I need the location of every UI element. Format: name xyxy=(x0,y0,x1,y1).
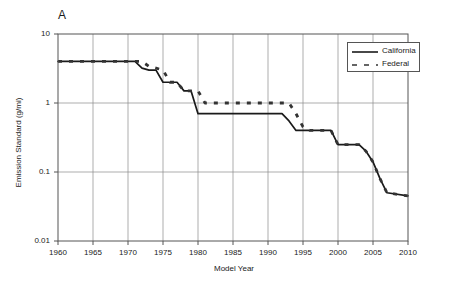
legend-entry-federal: Federal xyxy=(348,58,421,71)
legend-entry-california: California xyxy=(348,45,421,58)
x-tick-label: 2005 xyxy=(353,248,393,257)
y-tick-label: 0.01 xyxy=(20,236,50,245)
y-axis-title: Emission Standard (g/mi) xyxy=(14,63,23,223)
panel-label-a: A xyxy=(58,8,66,22)
x-tick-label: 2010 xyxy=(388,248,428,257)
emission-standard-figure: A 0.010.1110 196019651970197519801985199… xyxy=(0,0,468,290)
x-tick-label: 2000 xyxy=(318,248,358,257)
y-tick-label: 1 xyxy=(20,98,50,107)
x-tick-label: 1975 xyxy=(143,248,183,257)
legend-label-federal: Federal xyxy=(382,59,409,68)
legend-line-solid-icon xyxy=(352,51,378,53)
x-axis-title: Model Year xyxy=(0,264,468,273)
x-tick-label: 1985 xyxy=(213,248,253,257)
x-tick-label: 1965 xyxy=(73,248,113,257)
x-tick-label: 1995 xyxy=(283,248,323,257)
y-tick-label: 0.1 xyxy=(20,167,50,176)
x-tick-label: 1980 xyxy=(178,248,218,257)
x-tick-label: 1990 xyxy=(248,248,288,257)
legend-line-dashed-icon xyxy=(352,64,378,66)
y-tick-label: 10 xyxy=(20,29,50,38)
legend-label-california: California xyxy=(382,46,416,55)
x-tick-label: 1960 xyxy=(38,248,78,257)
chart-legend: California Federal xyxy=(347,42,420,72)
x-tick-label: 1970 xyxy=(108,248,148,257)
